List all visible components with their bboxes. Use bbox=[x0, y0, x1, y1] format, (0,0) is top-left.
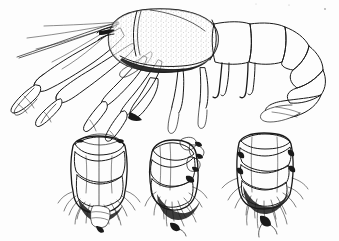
illustration-plate bbox=[0, 0, 339, 241]
crustacean-plate-svg bbox=[0, 0, 339, 241]
